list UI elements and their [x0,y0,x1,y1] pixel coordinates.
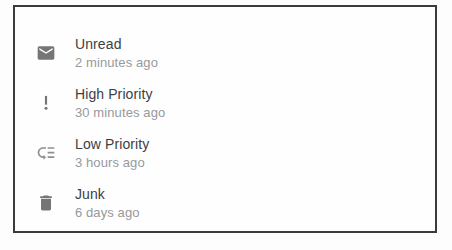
priority-high-icon [36,93,56,113]
list-item-text: High Priority 30 minutes ago [75,85,165,121]
list-item-low-priority[interactable]: Low Priority 3 hours ago [15,128,435,178]
item-timestamp: 30 minutes ago [75,105,165,121]
mail-filter-list: Unread 2 minutes ago High Priority 30 mi… [15,7,435,228]
item-title: Junk [75,185,140,203]
item-timestamp: 6 days ago [75,205,140,221]
item-title: Unread [75,35,158,53]
email-icon [36,43,56,63]
mail-filter-panel: Unread 2 minutes ago High Priority 30 mi… [13,5,437,233]
list-item-high-priority[interactable]: High Priority 30 minutes ago [15,78,435,128]
list-item-unread[interactable]: Unread 2 minutes ago [15,28,435,78]
item-timestamp: 2 minutes ago [75,55,158,71]
low-priority-icon [36,143,56,163]
list-item-text: Junk 6 days ago [75,185,140,221]
item-title: Low Priority [75,135,149,153]
item-timestamp: 3 hours ago [75,155,149,171]
list-item-text: Unread 2 minutes ago [75,35,158,71]
list-item-text: Low Priority 3 hours ago [75,135,149,171]
delete-icon [36,193,56,213]
item-title: High Priority [75,85,165,103]
list-item-junk[interactable]: Junk 6 days ago [15,178,435,228]
